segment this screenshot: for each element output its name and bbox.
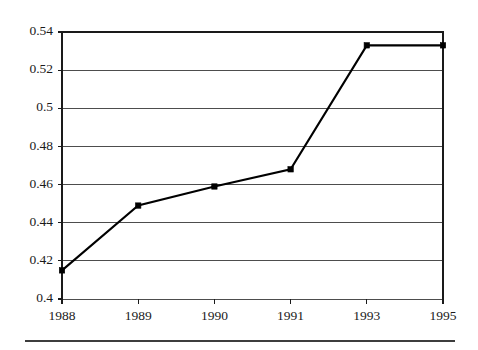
x-axis-tick-labels: 198819891990199119931995 [49, 308, 457, 323]
line-chart: 0.40.420.440.460.480.50.520.54 198819891… [0, 0, 478, 350]
chart-page: 0.40.420.440.460.480.50.520.54 198819891… [0, 0, 478, 350]
data-point-marker [212, 184, 217, 189]
x-tick-label: 1989 [125, 308, 152, 323]
series-polyline [62, 45, 443, 270]
y-tick-label: 0.52 [29, 61, 53, 76]
data-point-marker [136, 203, 141, 208]
y-tick-label: 0.5 [36, 99, 53, 114]
x-tick-label: 1995 [430, 308, 457, 323]
plot-frame-path [62, 32, 443, 304]
data-point-marker [440, 43, 445, 48]
data-point-marker [288, 167, 293, 172]
y-tick-label: 0.54 [29, 23, 53, 38]
y-tick-label: 0.4 [36, 290, 53, 305]
gridlines [62, 70, 443, 299]
x-tick-label: 1991 [277, 308, 304, 323]
x-tick-label: 1990 [201, 308, 228, 323]
x-tick-marks [62, 299, 443, 304]
plot-frame [62, 32, 443, 304]
data-series-line [62, 45, 443, 270]
x-tick-label: 1988 [49, 308, 76, 323]
y-tick-label: 0.44 [29, 214, 53, 229]
data-point-marker [364, 43, 369, 48]
y-tick-label: 0.46 [29, 176, 53, 191]
y-tick-label: 0.42 [29, 252, 53, 267]
data-point-marker [59, 268, 64, 273]
y-tick-label: 0.48 [29, 138, 53, 153]
data-point-markers [59, 43, 445, 273]
x-tick-label: 1993 [353, 308, 380, 323]
y-axis-tick-labels: 0.40.420.440.460.480.50.520.54 [29, 23, 53, 305]
